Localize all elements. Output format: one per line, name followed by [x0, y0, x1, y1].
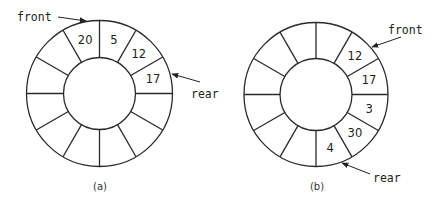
- segment-divider: [254, 113, 285, 131]
- segment-divider: [36, 57, 68, 76]
- queue-cell-value: 12: [348, 49, 363, 63]
- inner-circle: [64, 58, 136, 130]
- queue-cell-value: 3: [365, 102, 372, 116]
- front-label-a: front: [17, 10, 52, 24]
- front-arrow-b: [372, 37, 401, 47]
- rear-label-b: rear: [373, 171, 401, 185]
- segment-divider: [280, 126, 298, 157]
- queue-cell-value: 17: [362, 73, 377, 87]
- queue-cell-value: 17: [146, 72, 161, 86]
- front-arrow-a: [58, 17, 86, 21]
- segment-divider: [131, 112, 163, 131]
- ring-a: [27, 21, 173, 167]
- queue-cell-value: 30: [348, 126, 363, 140]
- caption-b: (b): [310, 181, 324, 192]
- rear-arrow-a: [172, 74, 200, 82]
- queue-cell-value: 12: [131, 47, 146, 61]
- ring-b: [244, 23, 388, 167]
- segment-divider: [63, 125, 82, 157]
- circular-queue-figure: 2051217 front rear (a) 12173304 front re…: [0, 0, 434, 205]
- segment-divider: [280, 32, 298, 63]
- circular-queue-a: 2051217 front rear (a): [17, 10, 219, 192]
- inner-circle: [280, 59, 352, 131]
- queue-cell-value: 5: [110, 33, 117, 47]
- queue-cell-value: 4: [327, 141, 334, 155]
- queue-cell-value: 20: [78, 33, 93, 47]
- rear-arrow-b: [342, 163, 370, 174]
- segment-divider: [118, 125, 137, 157]
- caption-a: (a): [93, 181, 107, 192]
- segment-divider: [36, 112, 68, 131]
- circular-queue-b: 12173304 front rear (b): [244, 23, 423, 193]
- rear-label-a: rear: [191, 87, 219, 101]
- front-label-b: front: [388, 23, 423, 37]
- segment-divider: [254, 59, 285, 77]
